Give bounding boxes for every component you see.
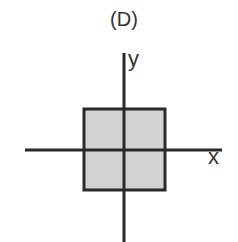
diagram-canvas	[0, 0, 238, 242]
y-axis-label: y	[128, 46, 139, 72]
x-axis-label: x	[208, 144, 219, 170]
figure-title: (D)	[0, 8, 238, 31]
